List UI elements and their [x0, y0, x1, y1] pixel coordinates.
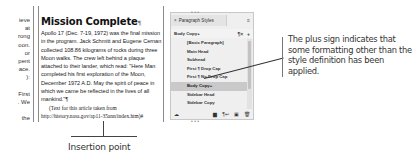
- fragment: ieve: [15, 16, 30, 24]
- styles-scrollbar[interactable]: [247, 39, 252, 109]
- column-guide-left: [33, 6, 34, 122]
- current-style-row: Body Copy+ ¶× +: [171, 29, 253, 38]
- style-item-main-head[interactable]: Main Head: [171, 48, 248, 57]
- new-group-folder-icon[interactable]: ▆: [213, 111, 217, 117]
- frame-edge: [163, 6, 164, 122]
- fragment: . We: [15, 98, 30, 106]
- body-paragraph[interactable]: Apollo 17 (Dec. 7-19, 1972) was the fina…: [41, 29, 163, 104]
- panel-footer: ☁ ▆ ¶↩ ▣ 🗑: [171, 108, 253, 119]
- insertion-point-label: Insertion point: [68, 142, 130, 152]
- fragment: ace.: [15, 65, 30, 73]
- style-item-subhead[interactable]: Subhead: [171, 56, 248, 65]
- insertion-pointer-line: [103, 121, 104, 136]
- callout-rule: [282, 37, 283, 77]
- clear-override-icon[interactable]: ¶↩: [222, 111, 229, 117]
- fragment: or: [15, 49, 30, 57]
- panel-grip-bottom[interactable]: • • •: [191, 118, 199, 124]
- paragraph-styles-panel: • • • × Paragraph Styles ≡ Body Copy+ ¶×…: [170, 12, 254, 120]
- fragment: [15, 106, 30, 114]
- fragment: the: [15, 114, 30, 122]
- fragment: pent: [15, 57, 30, 65]
- panel-menu-icon[interactable]: ≡: [247, 17, 250, 23]
- fragment: ):: [15, 73, 30, 81]
- delete-style-icon[interactable]: 🗑: [244, 111, 250, 117]
- tab-paragraph-styles[interactable]: × Paragraph Styles: [171, 15, 227, 26]
- cc-library-icon[interactable]: ☁: [174, 111, 179, 117]
- plus-sign-callout: The plus sign indicates that some format…: [288, 34, 416, 76]
- fragment: at: [15, 24, 30, 32]
- insertion-pointer-bar: [71, 136, 137, 137]
- fragment: First: [15, 90, 30, 98]
- style-item-sidebar-head[interactable]: Sidebar Head: [171, 91, 248, 100]
- style-item-first-no-drop-cap[interactable]: First ¶ No Drop Cap: [171, 73, 248, 82]
- new-style-icon[interactable]: ▣: [234, 111, 239, 117]
- pilcrow-mark: ¶: [138, 19, 142, 26]
- column-guide-right: [38, 6, 39, 122]
- style-item-sidebar-copy[interactable]: Sidebar Copy: [171, 99, 248, 108]
- source-note[interactable]: (Text for this article taken from http:/…: [41, 104, 163, 120]
- headline-text: Mission Complete: [41, 16, 138, 27]
- style-item-body-copy[interactable]: Body Copy+: [171, 82, 248, 91]
- clear-overrides-icon[interactable]: ¶×: [237, 31, 243, 37]
- close-icon[interactable]: ×: [174, 18, 177, 23]
- text-frame[interactable]: Mission Complete¶ Apollo 17 (Dec. 7-19, …: [41, 16, 163, 120]
- headline[interactable]: Mission Complete¶: [41, 16, 163, 29]
- fragment: oon.: [15, 41, 30, 49]
- fragment: [15, 82, 30, 90]
- current-style-label: Body Copy+: [174, 31, 200, 36]
- fragment: rong: [15, 32, 30, 40]
- new-style-plus-icon[interactable]: +: [247, 31, 250, 37]
- panel-title: Paragraph Styles: [179, 18, 214, 23]
- style-item-basic-paragraph[interactable]: [Basic Paragraph]: [171, 39, 248, 48]
- styles-list: [Basic Paragraph] Main Head Subhead Firs…: [171, 39, 248, 108]
- adjacent-column-text: ieve at rong oon. or pent ace. ): First …: [15, 16, 30, 123]
